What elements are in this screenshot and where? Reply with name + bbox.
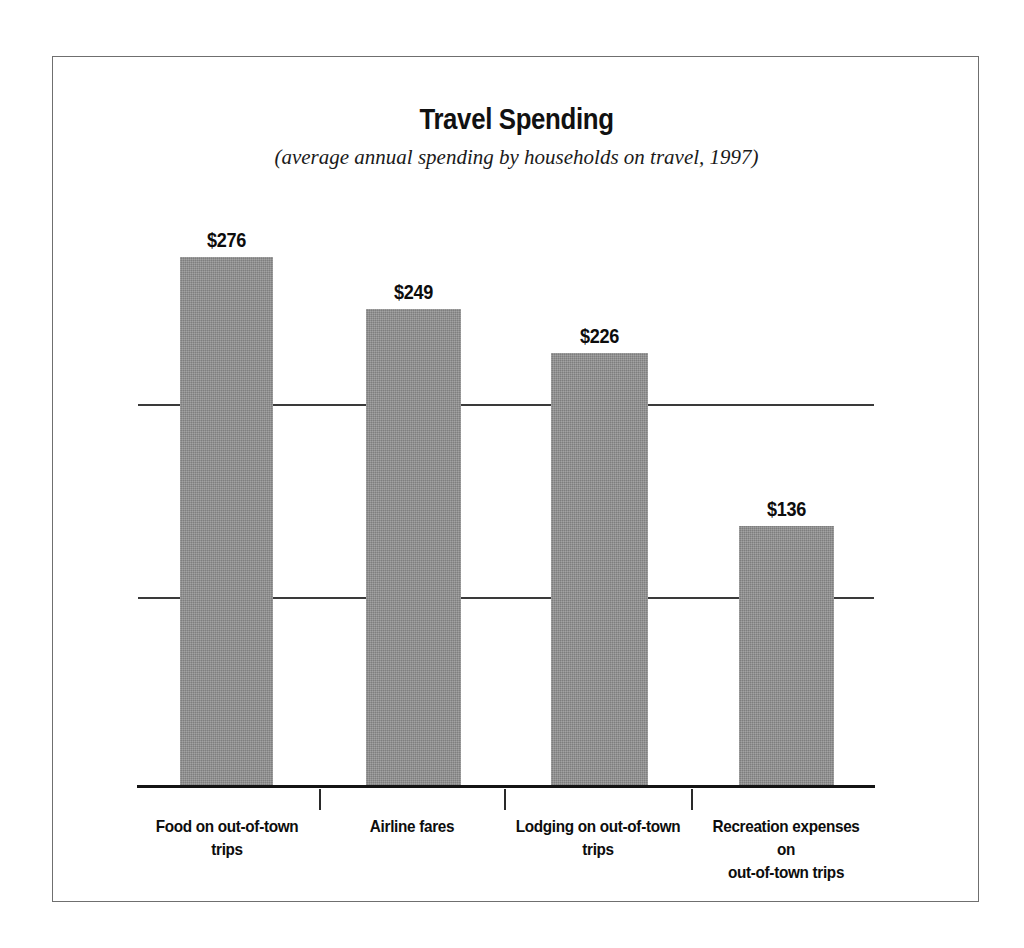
category-label-airline-line1: Airline fares [330,815,494,838]
bar-value-lodging: $226 [547,324,651,348]
plot-area: $276 $249 $226 $136 Food on out-of-town … [53,57,980,903]
bar-lodging[interactable] [551,353,648,786]
bar-airline[interactable] [366,309,461,786]
bar-food[interactable] [180,257,273,786]
category-label-food: Food on out-of-town trips [142,815,311,861]
x-axis-line [137,785,875,788]
category-label-lodging: Lodging on out-of-town trips [514,815,681,861]
category-label-recreation-line1: Recreation expenses on [702,815,869,861]
bar-value-recreation: $136 [734,497,838,521]
bar-value-food: $276 [174,228,278,252]
bar-value-airline: $249 [361,280,465,304]
category-label-lodging-line1: Lodging on out-of-town [514,815,681,838]
chart-frame: Travel Spending (average annual spending… [52,56,979,902]
bar-recreation[interactable] [739,526,834,786]
category-label-airline: Airline fares [330,815,494,838]
x-axis-tick-2 [504,789,506,810]
category-label-lodging-line2: trips [514,838,681,861]
x-axis-tick-1 [319,789,321,810]
figure-canvas: Travel Spending (average annual spending… [0,0,1024,948]
category-label-food-line1: Food on out-of-town trips [142,815,311,861]
x-axis-tick-3 [691,789,693,810]
category-label-recreation-line2: out-of-town trips [702,861,869,884]
category-label-recreation: Recreation expenses on out-of-town trips [702,815,869,884]
